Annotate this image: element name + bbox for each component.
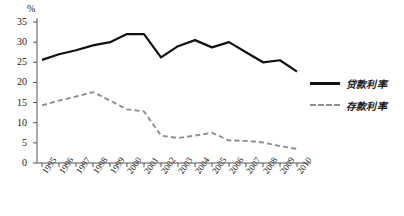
interest-rate-line-chart: % 05101520253035 19951996199719981999200…: [0, 0, 404, 216]
legend-label-loan-rate: 贷款利率: [346, 76, 387, 91]
legend-item-deposit-rate: 存款利率: [310, 94, 387, 116]
legend-item-loan-rate: 贷款利率: [310, 72, 387, 94]
series-line-deposit-rate: [42, 92, 297, 149]
legend-swatch-dashed-line-icon: [310, 100, 340, 110]
legend-swatch-solid-line-icon: [310, 78, 340, 88]
legend-label-deposit-rate: 存款利率: [346, 98, 387, 113]
chart-legend: 贷款利率 存款利率: [310, 72, 387, 116]
series-line-loan-rate: [42, 34, 297, 71]
